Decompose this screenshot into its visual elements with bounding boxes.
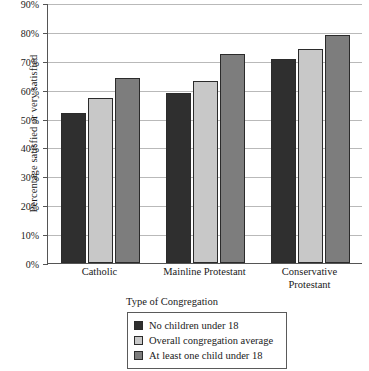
legend-swatch-icon xyxy=(134,351,143,360)
bar xyxy=(271,59,296,263)
y-tick-label: 50% xyxy=(21,114,39,125)
x-category-label: ConservativeProtestant xyxy=(257,266,362,291)
legend: No children under 18Overall congregation… xyxy=(127,312,287,369)
plot-area xyxy=(47,4,362,264)
y-tick-label: 10% xyxy=(21,230,39,241)
bar xyxy=(220,54,245,263)
y-axis-tick-labels: 0%10%20%30%40%50%60%70%80%90% xyxy=(0,4,47,264)
x-category-label: Mainline Protestant xyxy=(152,266,257,279)
y-tick-label: 30% xyxy=(21,172,39,183)
y-tick-label: 40% xyxy=(21,143,39,154)
legend-label: Overall congregation average xyxy=(149,335,273,346)
bar xyxy=(193,81,218,263)
tick-mark xyxy=(43,264,48,265)
y-tick-label: 20% xyxy=(21,201,39,212)
y-tick-label: 80% xyxy=(21,27,39,38)
x-axis-category-labels: CatholicMainline ProtestantConservativeP… xyxy=(47,266,362,300)
y-tick-label: 90% xyxy=(21,0,39,10)
x-axis-title: Type of Congregation xyxy=(47,296,297,307)
y-tick-label: 60% xyxy=(21,85,39,96)
y-tick-label: 70% xyxy=(21,56,39,67)
legend-label: At least one child under 18 xyxy=(149,350,262,361)
legend-item: No children under 18 xyxy=(134,318,279,333)
bar-chart: Percentage satisfied or very satisfied 0… xyxy=(0,0,369,371)
x-category-label: Catholic xyxy=(47,266,152,279)
bars-layer xyxy=(48,4,362,263)
legend-item: Overall congregation average xyxy=(134,333,279,348)
legend-swatch-icon xyxy=(134,336,143,345)
bar xyxy=(325,35,350,263)
legend-swatch-icon xyxy=(134,321,143,330)
y-tick-label: 0% xyxy=(26,259,39,270)
bar xyxy=(61,113,86,263)
bar xyxy=(166,93,191,263)
legend-label: No children under 18 xyxy=(149,320,239,331)
legend-item: At least one child under 18 xyxy=(134,348,279,363)
bar xyxy=(298,49,323,263)
bar xyxy=(115,78,140,263)
bar xyxy=(88,98,113,263)
